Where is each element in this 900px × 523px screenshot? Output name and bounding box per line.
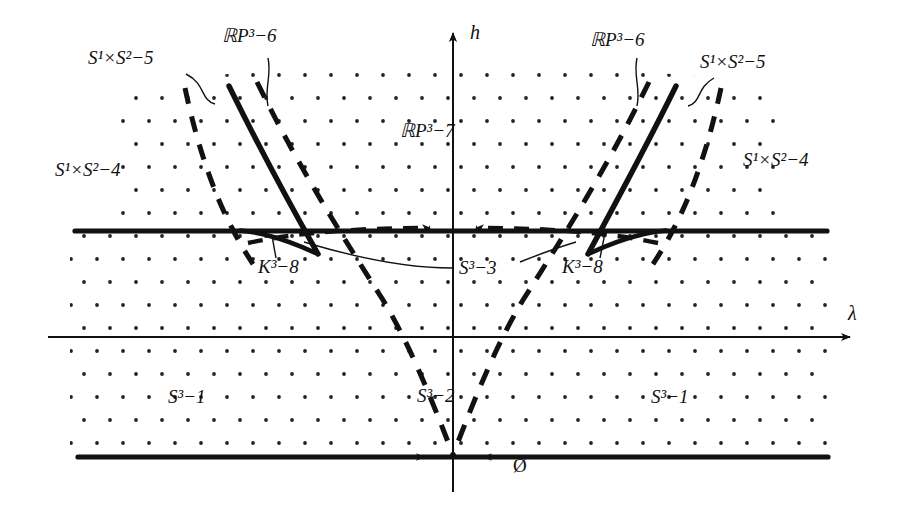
label-s1xs2-5-left: S¹×S²−5 <box>88 48 154 67</box>
label-s3-3: S³−3 <box>459 258 497 277</box>
label-rp3-7: ℝP³−7 <box>400 121 455 140</box>
label-k3-8-left: K³−8 <box>258 257 299 276</box>
label-empty-set: Ø <box>513 456 527 475</box>
label-rp3-6-left: ℝP³−6 <box>222 26 277 45</box>
label-k3-8-right: K³−8 <box>562 257 603 276</box>
label-s1xs2-4-right: S¹×S²−4 <box>743 150 809 169</box>
label-rp3-6-right: ℝP³−6 <box>590 30 645 49</box>
label-s1xs2-4-left: S¹×S²−4 <box>55 160 121 179</box>
label-s1xs2-5-right: S¹×S²−5 <box>700 52 766 71</box>
h-axis-label: h <box>470 22 480 42</box>
lambda-axis-label: λ <box>848 303 857 323</box>
label-s3-1-left: S³−1 <box>168 387 206 406</box>
diagram-canvas <box>0 0 900 523</box>
phase-diagram-figure: S¹×S²−5 ℝP³−6 ℝP³−6 S¹×S²−5 ℝP³−7 S¹×S²−… <box>0 0 900 523</box>
label-s3-1-right: S³−1 <box>651 387 689 406</box>
label-s3-2: S³−2 <box>417 386 455 405</box>
